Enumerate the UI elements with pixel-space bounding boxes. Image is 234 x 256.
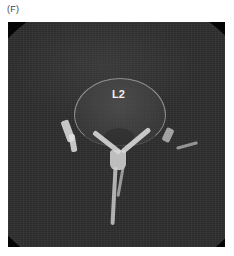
vertebra-level-label: L2: [112, 88, 125, 100]
ct-scan-image: L2: [8, 22, 225, 247]
panel-label: (F): [7, 4, 19, 14]
